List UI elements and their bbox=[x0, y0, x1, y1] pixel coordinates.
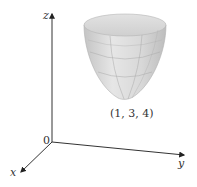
z-axis-label: z bbox=[42, 9, 49, 22]
y-axis-label: y bbox=[177, 157, 185, 170]
paraboloid-diagram: z y x 0 (1, 3, 4) bbox=[0, 0, 197, 187]
origin-label: 0 bbox=[43, 134, 50, 147]
vertex-label: (1, 3, 4) bbox=[110, 107, 154, 120]
paraboloid-surface bbox=[84, 14, 166, 99]
x-axis-label: x bbox=[10, 166, 17, 179]
y-axis bbox=[52, 142, 184, 155]
